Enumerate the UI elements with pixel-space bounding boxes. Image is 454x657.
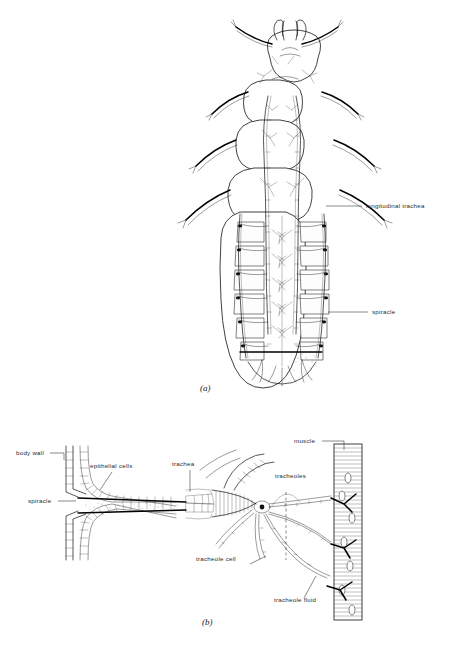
figure-container: longitudinal trachea spiracle (a) (0, 0, 454, 657)
label-longitudinal-trachea: longitudinal trachea (366, 202, 425, 209)
label-muscle: muscle (294, 437, 315, 444)
caption-panel-b: (b) (202, 617, 213, 627)
label-epithelial-cells: epithelial cells (90, 462, 133, 469)
caption-panel-a: (a) (200, 383, 211, 393)
label-spiracle-panel-a: spiracle (372, 308, 396, 315)
label-tracheoles: tracheoles (275, 472, 306, 479)
label-tracheole-fluid: tracheole fluid (274, 596, 317, 603)
label-body-wall: body wall (16, 449, 44, 456)
label-trachea: trachea (172, 460, 195, 467)
label-tracheole-cell: tracheole cell (196, 555, 236, 562)
label-spiracle-panel-b: spiracle (28, 497, 52, 504)
figure-svg: longitudinal trachea spiracle (a) (0, 0, 454, 657)
